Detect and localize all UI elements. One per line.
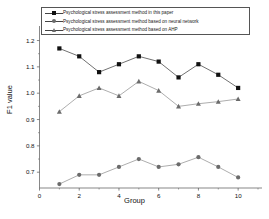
data-point bbox=[137, 157, 141, 161]
square-marker-icon bbox=[45, 9, 63, 17]
data-point bbox=[77, 54, 81, 58]
svg-text:1.2: 1.2 bbox=[26, 37, 35, 44]
y-axis-ticks: 0.70.80.91.01.11.2 bbox=[26, 37, 40, 176]
data-point bbox=[157, 60, 161, 64]
circle-marker-icon bbox=[45, 18, 63, 26]
data-series-layer bbox=[57, 46, 241, 186]
data-point bbox=[216, 165, 220, 169]
svg-text:0.9: 0.9 bbox=[26, 116, 35, 123]
data-point bbox=[236, 175, 240, 179]
series-square bbox=[57, 46, 240, 90]
data-point bbox=[156, 88, 161, 93]
data-point bbox=[97, 173, 101, 177]
caption-artifact bbox=[10, 206, 260, 215]
data-point bbox=[57, 46, 61, 50]
data-point bbox=[136, 79, 141, 84]
data-point bbox=[97, 85, 102, 90]
data-point bbox=[176, 75, 180, 79]
data-point bbox=[216, 73, 220, 77]
data-point bbox=[57, 182, 61, 186]
chart-figure: 0.70.80.91.01.11.2 0246810 Psychological… bbox=[0, 0, 269, 219]
series-triangle bbox=[57, 79, 241, 114]
data-point bbox=[117, 165, 121, 169]
data-point bbox=[196, 155, 200, 159]
data-point bbox=[77, 93, 82, 98]
data-point bbox=[196, 62, 200, 66]
series-circle bbox=[57, 155, 240, 186]
legend-item-this-paper: Psychological stress assessment method i… bbox=[45, 9, 247, 17]
legend-item-neural-network: Psychological stress assessment method b… bbox=[45, 17, 247, 25]
x-axis-title: Group bbox=[0, 196, 269, 205]
data-point bbox=[116, 93, 121, 98]
svg-text:1.0: 1.0 bbox=[26, 89, 35, 96]
data-point bbox=[137, 54, 141, 58]
y-axis-title: F1 value bbox=[5, 70, 14, 130]
data-point bbox=[176, 162, 180, 166]
data-point bbox=[77, 173, 81, 177]
data-point bbox=[97, 70, 101, 74]
data-point bbox=[157, 165, 161, 169]
svg-text:0.8: 0.8 bbox=[26, 142, 35, 149]
svg-text:1.1: 1.1 bbox=[26, 63, 35, 70]
data-point bbox=[236, 86, 240, 90]
data-point bbox=[117, 62, 121, 66]
svg-text:0.7: 0.7 bbox=[26, 168, 35, 175]
legend-item-label: Psychological stress assessment method b… bbox=[63, 18, 199, 26]
legend-item-label: Psychological stress assessment method i… bbox=[63, 9, 173, 17]
legend: Psychological stress assessment method i… bbox=[41, 7, 250, 35]
data-point bbox=[236, 96, 241, 101]
triangle-marker-icon bbox=[45, 26, 63, 34]
legend-item-ahp: Psychological stress assessment method b… bbox=[45, 26, 247, 34]
legend-item-label: Psychological stress assessment method b… bbox=[63, 26, 178, 34]
